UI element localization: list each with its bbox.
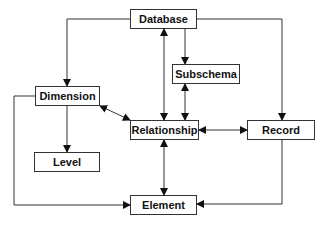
node-label: Level xyxy=(53,156,81,168)
node-database: Database xyxy=(130,9,197,29)
node-record: Record xyxy=(247,120,315,140)
node-dimension: Dimension xyxy=(35,86,100,106)
node-label: Record xyxy=(262,124,300,136)
node-label: Database xyxy=(139,13,188,25)
connector-lines xyxy=(0,0,329,228)
node-label: Subschema xyxy=(175,68,237,80)
node-label: Element xyxy=(142,199,185,211)
node-relationship: Relationship xyxy=(130,120,199,140)
edge-dimension-relationship xyxy=(100,106,130,120)
node-element: Element xyxy=(130,195,197,215)
node-subschema: Subschema xyxy=(172,64,240,84)
edge-record-element xyxy=(197,140,282,204)
node-level: Level xyxy=(34,152,100,172)
node-label: Relationship xyxy=(131,124,197,136)
edge-database-dimension xyxy=(67,19,130,86)
node-label: Dimension xyxy=(39,90,95,102)
